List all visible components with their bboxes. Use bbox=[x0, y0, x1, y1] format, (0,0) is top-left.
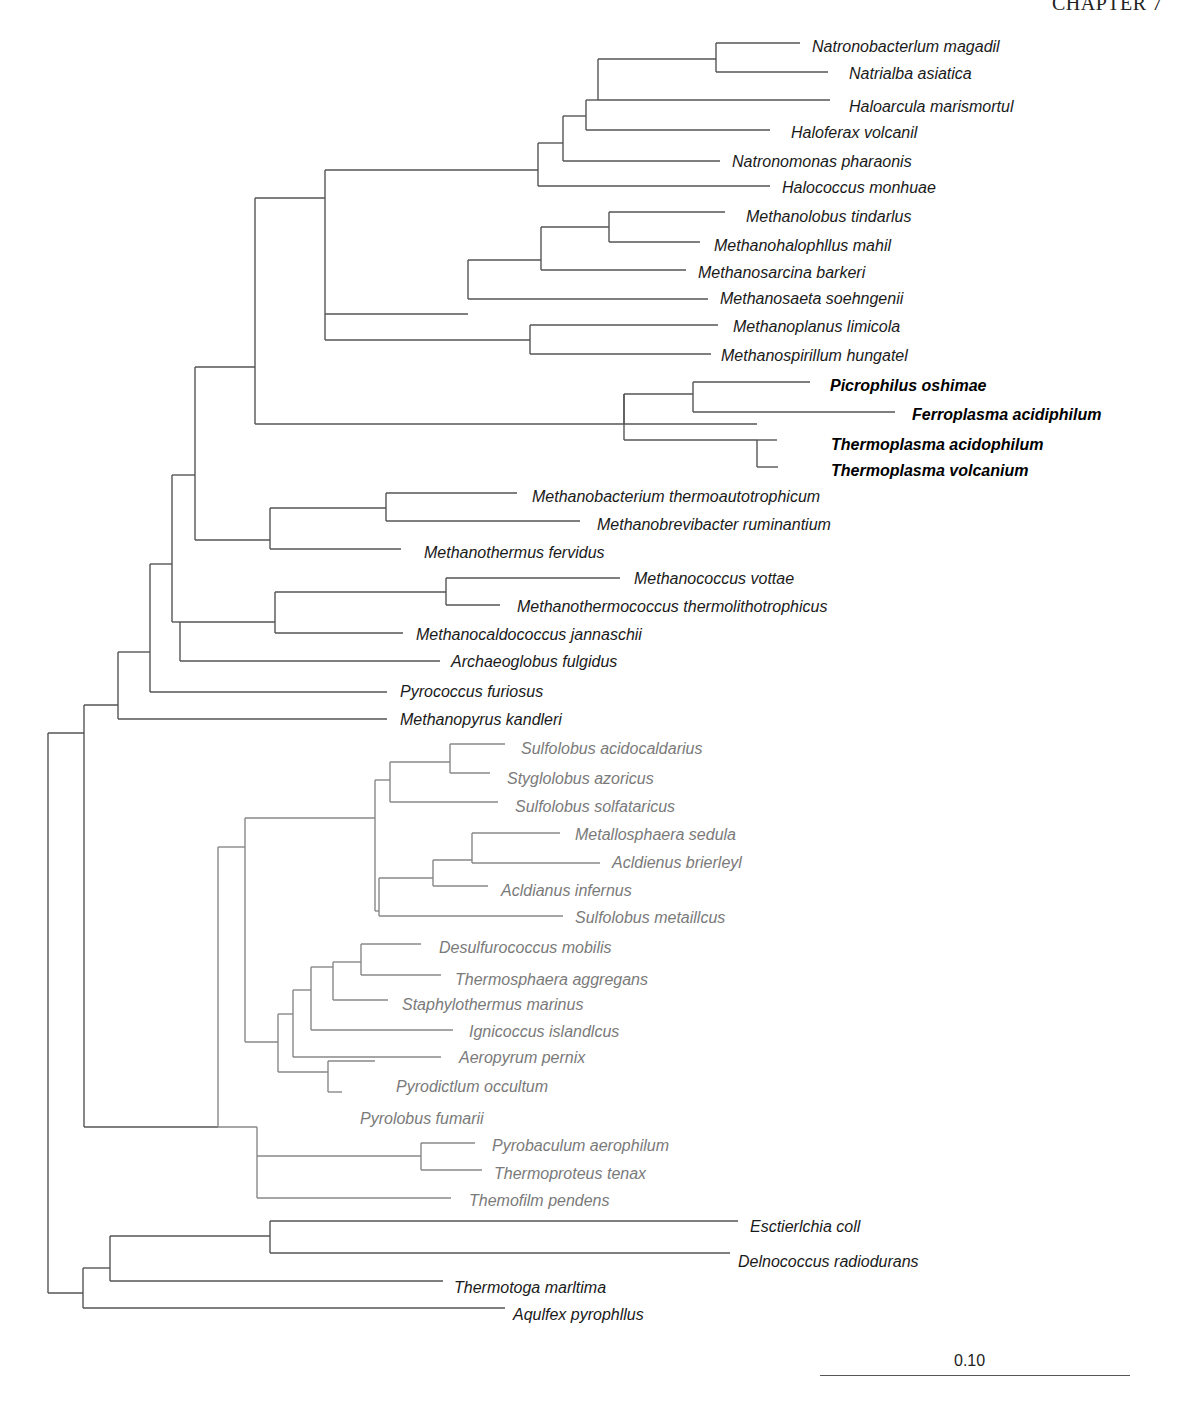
taxon-label: Delnococcus radiodurans bbox=[738, 1252, 919, 1272]
taxon-label: Halococcus monhuae bbox=[782, 178, 936, 198]
taxon-label: Sulfolobus acidocaldarius bbox=[521, 739, 702, 759]
scale-bar bbox=[820, 1375, 1130, 1376]
taxon-label: Methanosarcina barkeri bbox=[698, 263, 865, 283]
taxon-label: Picrophilus oshimae bbox=[830, 376, 986, 396]
taxon-label: Thermosphaera aggregans bbox=[455, 970, 648, 990]
taxon-label: Ignicoccus islandlcus bbox=[469, 1022, 619, 1042]
taxon-label: Esctierlchia coll bbox=[750, 1217, 860, 1237]
taxon-label: Themofilm pendens bbox=[469, 1191, 610, 1211]
taxon-label: Methanopyrus kandleri bbox=[400, 710, 562, 730]
taxon-label: Desulfurococcus mobilis bbox=[439, 938, 612, 958]
taxon-label: Aeropyrum pernix bbox=[459, 1048, 585, 1068]
taxon-label: Haloarcula marismortul bbox=[849, 97, 1014, 117]
taxon-label: Methanococcus vottae bbox=[634, 569, 794, 589]
taxon-label: Pyrolobus fumarii bbox=[360, 1109, 484, 1129]
taxon-label: Pyrococcus furiosus bbox=[400, 682, 543, 702]
taxon-label: Haloferax volcanil bbox=[791, 123, 917, 143]
taxon-label: Pyrobaculum aerophilum bbox=[492, 1136, 669, 1156]
taxon-label: Styglolobus azoricus bbox=[507, 769, 654, 789]
taxon-label: Methanosaeta soehngenii bbox=[720, 289, 903, 309]
taxon-label: Methanolobus tindarlus bbox=[746, 207, 911, 227]
taxon-label: Acldienus brierleyl bbox=[612, 853, 742, 873]
taxon-label: Metallosphaera sedula bbox=[575, 825, 736, 845]
taxon-label: Sulfolobus solfataricus bbox=[515, 797, 675, 817]
taxon-label: Natrialba asiatica bbox=[849, 64, 972, 84]
taxon-label: Methanospirillum hungatel bbox=[721, 346, 908, 366]
taxon-label: Methanobrevibacter ruminantium bbox=[597, 515, 831, 535]
taxon-label: Archaeoglobus fulgidus bbox=[451, 652, 617, 672]
taxon-label: Thermoplasma acidophilum bbox=[831, 435, 1043, 455]
taxon-label: Acldianus infernus bbox=[501, 881, 632, 901]
taxon-label: Methanoplanus limicola bbox=[733, 317, 900, 337]
taxon-label: Thermotoga marltima bbox=[454, 1278, 606, 1298]
taxon-label: Ferroplasma acidiphilum bbox=[912, 405, 1101, 425]
taxon-label: Thermoplasma volcanium bbox=[831, 461, 1028, 481]
taxon-label: Methanothermus fervidus bbox=[424, 543, 605, 563]
taxon-label: Natronobacterlum magadil bbox=[812, 37, 1000, 57]
taxon-label: Methanobacterium thermoautotrophicum bbox=[532, 487, 820, 507]
taxon-label: Thermoproteus tenax bbox=[494, 1164, 646, 1184]
taxon-label: Methanothermococcus thermolithotrophicus bbox=[517, 597, 827, 617]
taxon-label: Pyrodictlum occultum bbox=[396, 1077, 548, 1097]
taxon-label: Staphylothermus marinus bbox=[402, 995, 583, 1015]
scale-bar-label: 0.10 bbox=[954, 1352, 985, 1370]
taxon-label: Methanohalophllus mahil bbox=[714, 236, 891, 256]
taxon-label: Natronomonas pharaonis bbox=[732, 152, 912, 172]
taxon-label: Methanocaldococcus jannaschii bbox=[416, 625, 642, 645]
taxon-label: Aqulfex pyrophllus bbox=[513, 1305, 644, 1325]
taxon-label: Sulfolobus metaillcus bbox=[575, 908, 725, 928]
